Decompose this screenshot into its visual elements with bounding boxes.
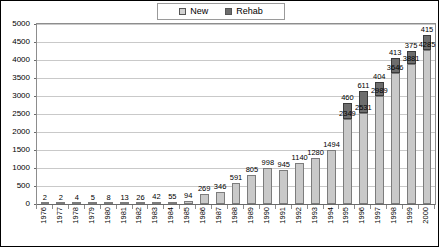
bar-column[interactable] bbox=[136, 202, 145, 204]
x-axis-tick-label: 1990 bbox=[263, 207, 271, 224]
y-axis-tick-label: 4000 bbox=[12, 56, 30, 64]
y-axis-tick-label: 500 bbox=[17, 182, 30, 190]
legend-item-new: New bbox=[179, 7, 208, 16]
x-axis-tick-mark bbox=[434, 205, 435, 209]
y-axis-tick-label: 2500 bbox=[12, 110, 30, 118]
bar-segment-new[interactable] bbox=[311, 158, 320, 204]
bar-segment-new[interactable] bbox=[295, 163, 304, 204]
bar-segment-new[interactable] bbox=[343, 119, 352, 204]
bar-segment-new[interactable] bbox=[168, 202, 177, 204]
bar-column[interactable] bbox=[311, 158, 320, 204]
bar-segment-new[interactable] bbox=[423, 50, 432, 204]
bar-column[interactable] bbox=[200, 194, 209, 204]
x-axis-tick-mark bbox=[132, 205, 133, 209]
bar-segment-new[interactable] bbox=[72, 202, 81, 204]
x-axis-tick-mark bbox=[338, 205, 339, 209]
chart-legend: New Rehab bbox=[157, 3, 285, 20]
x-axis-tick-mark bbox=[307, 205, 308, 209]
bar-segment-new[interactable] bbox=[327, 150, 336, 204]
bar-segment-new[interactable] bbox=[391, 73, 400, 204]
bar-column[interactable] bbox=[120, 202, 129, 204]
bar-data-label-new: 346 bbox=[214, 183, 227, 191]
bar-column[interactable] bbox=[168, 202, 177, 204]
bar-data-label-new: 945 bbox=[277, 161, 290, 169]
x-axis-tick-mark bbox=[259, 205, 260, 209]
x-axis-tick-mark bbox=[179, 205, 180, 209]
bar-segment-new[interactable] bbox=[216, 192, 225, 204]
legend-label-new: New bbox=[190, 7, 208, 16]
bar-segment-new[interactable] bbox=[152, 202, 161, 204]
bar-column[interactable] bbox=[104, 202, 113, 204]
bar-column[interactable] bbox=[423, 35, 432, 204]
bar-segment-new[interactable] bbox=[120, 202, 129, 204]
bar-data-label-rehab: 404 bbox=[373, 73, 386, 81]
bar-segment-new[interactable] bbox=[232, 183, 241, 204]
y-axis-tick-label: 1500 bbox=[12, 146, 30, 154]
bar-column[interactable] bbox=[56, 202, 65, 204]
x-axis-tick-label: 1984 bbox=[167, 207, 175, 224]
bar-column[interactable] bbox=[72, 202, 81, 204]
bar-segment-new[interactable] bbox=[184, 201, 193, 204]
bar-data-label-new: 591 bbox=[230, 174, 243, 182]
x-axis-tick-label: 1976 bbox=[40, 207, 48, 224]
bar-segment-new[interactable] bbox=[41, 202, 50, 204]
y-axis-tick-label: 1000 bbox=[12, 164, 30, 172]
x-axis-tick-mark bbox=[243, 205, 244, 209]
bar-column[interactable] bbox=[247, 175, 256, 204]
y-axis-tick-label: 3500 bbox=[12, 74, 30, 82]
x-axis-tick-mark bbox=[291, 205, 292, 209]
x-axis-tick-label: 1996 bbox=[358, 207, 366, 224]
bar-column[interactable] bbox=[152, 202, 161, 204]
x-axis-tick-mark bbox=[275, 205, 276, 209]
bar-segment-new[interactable] bbox=[375, 96, 384, 204]
bar-segment-new[interactable] bbox=[56, 202, 65, 204]
x-axis-tick-mark bbox=[402, 205, 403, 209]
x-axis-tick-mark bbox=[354, 205, 355, 209]
bar-segment-new[interactable] bbox=[279, 170, 288, 204]
bar-data-label-new: 998 bbox=[262, 159, 275, 167]
bar-segment-new[interactable] bbox=[88, 202, 97, 204]
bar-column[interactable] bbox=[407, 51, 416, 204]
bar-column[interactable] bbox=[88, 202, 97, 204]
bar-segment-new[interactable] bbox=[104, 202, 113, 204]
bar-segment-new[interactable] bbox=[136, 202, 145, 204]
bar-column[interactable] bbox=[232, 183, 241, 204]
x-axis-tick-label: 1987 bbox=[215, 207, 223, 224]
bar-column[interactable] bbox=[327, 150, 336, 204]
bar-column[interactable] bbox=[41, 202, 50, 204]
x-axis-tick-label: 1980 bbox=[104, 207, 112, 224]
bar-segment-new[interactable] bbox=[359, 113, 368, 204]
bar-data-label-new: 2531 bbox=[355, 104, 372, 112]
bar-data-label-new: 55 bbox=[168, 193, 176, 201]
bar-segment-new[interactable] bbox=[200, 194, 209, 204]
bar-column[interactable] bbox=[375, 82, 384, 204]
bar-segment-new[interactable] bbox=[407, 64, 416, 204]
bar-column[interactable] bbox=[184, 201, 193, 204]
bar-column[interactable] bbox=[295, 163, 304, 204]
bar-column[interactable] bbox=[391, 58, 400, 204]
x-axis-tick-label: 2000 bbox=[422, 207, 430, 224]
bar-data-label-new: 8 bbox=[107, 194, 111, 202]
bar-data-label-rehab: 413 bbox=[389, 49, 402, 57]
bar-column[interactable] bbox=[279, 170, 288, 204]
bar-column[interactable] bbox=[216, 192, 225, 204]
x-axis-tick-label: 1979 bbox=[88, 207, 96, 224]
x-axis-tick-label: 1997 bbox=[374, 207, 382, 224]
x-axis-tick-label: 1986 bbox=[199, 207, 207, 224]
x-axis-tick-label: 1983 bbox=[151, 207, 159, 224]
bar-segment-new[interactable] bbox=[263, 168, 272, 204]
y-axis-tick-label: 0 bbox=[26, 200, 30, 208]
y-axis-tick-label: 3000 bbox=[12, 92, 30, 100]
x-axis-tick-mark bbox=[227, 205, 228, 209]
x-axis-tick-label: 1989 bbox=[247, 207, 255, 224]
x-axis-tick-label: 1998 bbox=[390, 207, 398, 224]
bar-data-label-new: 4 bbox=[75, 194, 79, 202]
bar-column[interactable] bbox=[263, 168, 272, 204]
x-axis-tick-mark bbox=[418, 205, 419, 209]
bar-data-label-new: 5 bbox=[91, 194, 95, 202]
x-axis-tick-label: 1985 bbox=[183, 207, 191, 224]
x-axis-tick-mark bbox=[100, 205, 101, 209]
x-axis-tick-label: 1977 bbox=[56, 207, 64, 224]
x-axis-tick-mark bbox=[163, 205, 164, 209]
bar-segment-new[interactable] bbox=[247, 175, 256, 204]
